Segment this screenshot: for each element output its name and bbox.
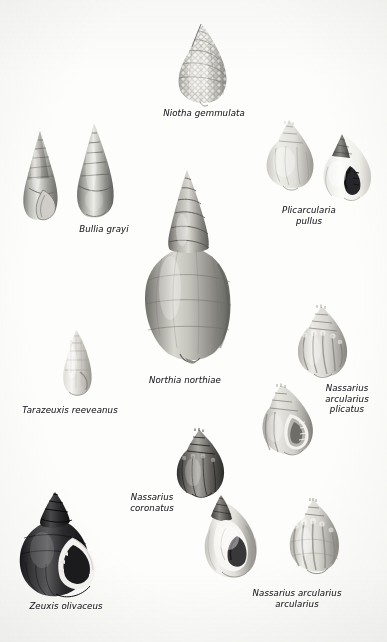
shell-figure-bullia-grayi-right [68,122,120,222]
shell-figure-nassarius-arcularius-plicatus-lower [256,382,322,464]
figure-label-nassarius-arcularius-arcularius: Nassarius arcularius arcularius [253,588,342,609]
shell-figure-zeuxis-olivaceus [10,490,106,600]
shell-figure-nassarius-coronatus-apertural [196,492,264,584]
figure-label-zeuxis-olivaceus: Zeuxis olivaceus [29,601,102,612]
figure-label-niotha-gemmulata: Niotha gemmulata [163,108,245,119]
shell-figure-northia-northiae [140,168,236,368]
shell-figure-nassarius-arcularius-plicatus-upper [288,304,354,386]
figure-label-nassarius-arcularius-plicatus: Nassarius arcularius plicatus [325,383,368,415]
shell-figure-bullia-grayi-left [16,130,66,222]
shell-figure-nassarius-arcularius-arcularius [280,498,346,582]
figure-label-bullia-grayi: Bullia grayi [79,224,128,235]
figure-label-nassarius-coronatus: Nassarius coronatus [130,492,174,513]
shell-figure-plicarcularia-pullus-dorsal [258,118,320,198]
figure-label-plicarcularia-pullus: Plicarcularia pullus [282,205,336,226]
shell-figure-tarazeuxis-reeveanus [56,328,100,400]
illustration-plate: Niotha gemmulata Bullia grayi Plicarcula… [0,0,387,642]
figure-label-northia-northiae: Northia northiae [149,375,221,386]
shell-figure-plicarcularia-pullus-apertural [316,132,378,208]
figure-label-tarazeuxis-reeveanus: Tarazeuxis reeveanus [22,405,117,416]
shell-figure-niotha-gemmulata [168,22,238,108]
